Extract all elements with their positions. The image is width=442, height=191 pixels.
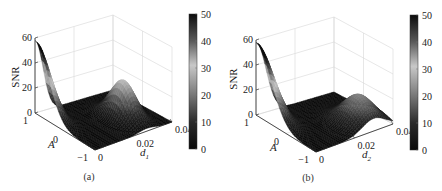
colorbar-tick-label: 30 [422, 64, 432, 75]
a-tick-label: 1 [23, 115, 28, 126]
colorbar [410, 15, 418, 150]
colorbar-tick-label: 20 [422, 91, 432, 102]
colorbar-tick-label: 40 [422, 37, 432, 48]
z-axis-label: SNR [9, 66, 21, 88]
z-tick-label: 40 [22, 57, 32, 68]
z-tick-label: 60 [22, 32, 32, 43]
colorbar-tick-label: 10 [422, 118, 432, 129]
z-tick-labels: 0204060 [243, 34, 259, 120]
z-axis-label: SNR [227, 68, 239, 90]
x-axis-label: A [47, 138, 55, 150]
caption: (b) [302, 172, 314, 184]
colorbar-tick-label: 10 [201, 117, 211, 128]
colorbar-tick-labels: 01020304050 [195, 9, 211, 155]
colorbar-tick-label: 50 [201, 9, 211, 20]
grid-line-z [35, 40, 172, 72]
colorbar-tick-label: 0 [422, 145, 427, 156]
z-tick-label: 20 [243, 84, 253, 95]
x-axis-label: A [269, 141, 277, 153]
colorbar [189, 14, 197, 149]
y-axis-label-subscript: 1 [146, 153, 150, 161]
colorbar-tick-label: 30 [201, 63, 211, 74]
a-tick-label: −1 [298, 154, 309, 165]
panel-b: 0204060 10−1 00.020.04 SNR A d2 01020304… [227, 10, 432, 184]
d-tick-label: 0 [98, 152, 103, 163]
grid-line-z [35, 15, 172, 47]
d-tick-label: 0 [319, 154, 324, 165]
colorbar-tick-label: 20 [201, 90, 211, 101]
z-tick-label: 40 [243, 59, 253, 70]
z-tick-label: 60 [243, 34, 253, 45]
z-tick-labels: 0204060 [22, 32, 38, 118]
panel-a: 0204060 10−1 00.020.04 SNR A d1 01020304… [9, 9, 211, 183]
z-tick-label: 20 [22, 82, 32, 93]
colorbar-tick-labels: 01020304050 [416, 10, 432, 156]
a-tick-label: −1 [77, 152, 88, 163]
colorbar-tick-label: 50 [422, 10, 432, 21]
grid-line-z [256, 42, 393, 74]
colorbar-tick-label: 40 [201, 36, 211, 47]
colorbar-tick-label: 0 [201, 144, 206, 155]
a-tick-label: 1 [244, 117, 249, 128]
caption: (a) [83, 171, 94, 183]
y-axis-label-subscript: 2 [368, 155, 372, 163]
figure: 0204060 10−1 00.020.04 SNR A d1 01020304… [0, 0, 442, 191]
grid-line-z [256, 17, 393, 49]
